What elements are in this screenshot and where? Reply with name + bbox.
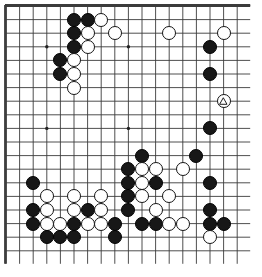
go-stone-white[interactable]: [149, 203, 163, 217]
go-stone-black[interactable]: [67, 26, 81, 40]
go-stone-black[interactable]: [121, 176, 135, 190]
go-stone-white[interactable]: [53, 217, 67, 231]
go-stone-white[interactable]: [176, 162, 190, 176]
go-stone-black[interactable]: [149, 217, 163, 231]
go-stone-black[interactable]: [26, 203, 40, 217]
go-stone-black[interactable]: [67, 230, 81, 244]
go-stone-white[interactable]: [162, 217, 176, 231]
go-stone-white[interactable]: [81, 40, 95, 54]
go-stone-white[interactable]: [40, 189, 54, 203]
go-stone-white[interactable]: [203, 230, 217, 244]
go-stone-black[interactable]: [189, 149, 203, 163]
go-stone-black[interactable]: [81, 13, 95, 27]
go-stone-black[interactable]: [217, 217, 231, 231]
go-stone-black[interactable]: [203, 217, 217, 231]
go-stone-white[interactable]: [94, 13, 108, 27]
go-stone-black[interactable]: [203, 176, 217, 190]
go-stone-white[interactable]: [81, 217, 95, 231]
go-stone-white[interactable]: [40, 217, 54, 231]
go-stone-black[interactable]: [67, 217, 81, 231]
go-stone-black[interactable]: [203, 40, 217, 54]
go-stone-white[interactable]: [67, 67, 81, 81]
hoshi-star-point: [45, 127, 48, 130]
go-stone-white[interactable]: [176, 217, 190, 231]
go-stone-white[interactable]: [135, 162, 149, 176]
go-stone-black[interactable]: [81, 203, 95, 217]
go-stone-white-marked-triangle[interactable]: [217, 94, 231, 108]
go-stone-white[interactable]: [149, 162, 163, 176]
go-stone-black[interactable]: [108, 230, 122, 244]
go-stone-white[interactable]: [81, 26, 95, 40]
go-stone-white[interactable]: [94, 203, 108, 217]
go-stone-white[interactable]: [94, 217, 108, 231]
hoshi-star-point: [45, 45, 48, 48]
go-stone-black[interactable]: [135, 149, 149, 163]
go-stone-black[interactable]: [26, 217, 40, 231]
go-stone-black[interactable]: [203, 67, 217, 81]
hoshi-star-point: [127, 45, 130, 48]
go-stone-white[interactable]: [67, 81, 81, 95]
go-stone-black[interactable]: [67, 40, 81, 54]
go-stone-black[interactable]: [67, 13, 81, 27]
go-stone-black[interactable]: [26, 176, 40, 190]
go-board-diagram: [0, 0, 262, 277]
go-stone-white[interactable]: [40, 203, 54, 217]
go-stone-white[interactable]: [108, 26, 122, 40]
go-stone-black[interactable]: [203, 203, 217, 217]
go-stone-white[interactable]: [135, 176, 149, 190]
go-stone-black[interactable]: [149, 176, 163, 190]
go-stone-black[interactable]: [40, 230, 54, 244]
go-stone-black[interactable]: [135, 217, 149, 231]
go-stone-white[interactable]: [67, 203, 81, 217]
go-stone-black[interactable]: [108, 217, 122, 231]
triangle-marker-icon: [218, 95, 230, 107]
hoshi-star-point: [127, 127, 130, 130]
go-stone-white[interactable]: [217, 26, 231, 40]
